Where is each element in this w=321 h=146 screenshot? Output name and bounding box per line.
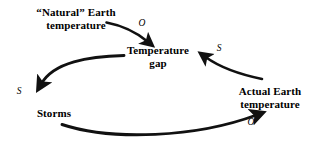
node-temperature-gap: Temperature gap bbox=[116, 44, 200, 69]
node-storms: Storms bbox=[24, 107, 84, 120]
link-label-storms-to-actual: O bbox=[245, 117, 257, 127]
arrow-actual-to-gap bbox=[206, 57, 263, 79]
causal-loop-diagram: “Natural” Earth temperature Temperature … bbox=[0, 0, 321, 146]
node-natural-earth-temperature: “Natural” Earth temperature bbox=[22, 6, 130, 31]
link-label-natural-to-gap: O bbox=[136, 18, 148, 28]
node-actual-earth-temperature: Actual Earth temperature bbox=[222, 85, 318, 110]
link-label-actual-to-gap: S bbox=[213, 43, 225, 53]
arrow-storms-to-actual bbox=[62, 115, 257, 135]
arrow-gap-to-storms bbox=[42, 56, 125, 84]
link-label-gap-to-storms: S bbox=[13, 86, 25, 96]
